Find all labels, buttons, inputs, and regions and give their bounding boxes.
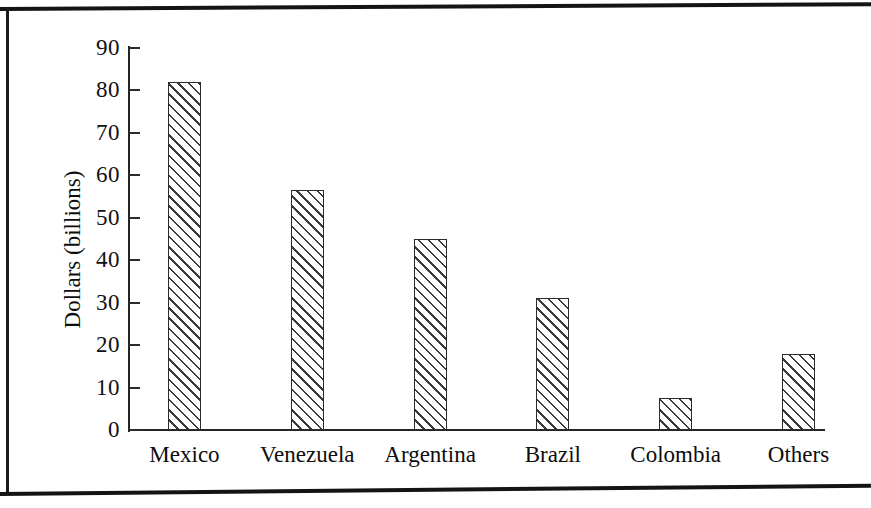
x-axis-category-label: Others xyxy=(719,442,871,468)
y-axis-tick-label-text: 0 xyxy=(76,418,120,441)
bar xyxy=(782,354,815,430)
y-axis-tick xyxy=(129,429,140,431)
bar-chart: 0102030405060708090 MexicoVenezuelaArgen… xyxy=(0,0,871,508)
bar xyxy=(291,190,324,430)
y-axis-tick xyxy=(129,259,140,261)
y-axis-tick-label: 90 xyxy=(68,36,120,59)
y-axis-tick xyxy=(129,217,140,219)
y-axis-tick-label: 10 xyxy=(68,376,120,399)
x-axis-line xyxy=(128,429,825,431)
y-axis-tick xyxy=(129,132,140,134)
bar xyxy=(414,239,447,430)
y-axis-tick xyxy=(129,344,140,346)
y-axis-tick-label: 80 xyxy=(68,78,120,101)
bar xyxy=(168,82,201,430)
y-axis-title: Dollars (billions) xyxy=(61,140,84,360)
y-axis-tick-label-text: 80 xyxy=(76,78,120,101)
bar xyxy=(536,298,569,430)
y-axis-tick xyxy=(129,174,140,176)
y-axis-tick-label-text: 10 xyxy=(76,376,120,399)
y-axis-tick xyxy=(129,89,140,91)
bar xyxy=(659,398,692,430)
y-axis-line xyxy=(128,46,130,432)
y-axis-tick-label-text: 90 xyxy=(76,36,120,59)
y-axis-tick xyxy=(129,47,140,49)
scanned-page: 0102030405060708090 MexicoVenezuelaArgen… xyxy=(0,0,871,508)
y-axis-tick-label: 0 xyxy=(68,418,120,441)
y-axis-tick xyxy=(129,302,140,304)
y-axis-tick xyxy=(129,387,140,389)
